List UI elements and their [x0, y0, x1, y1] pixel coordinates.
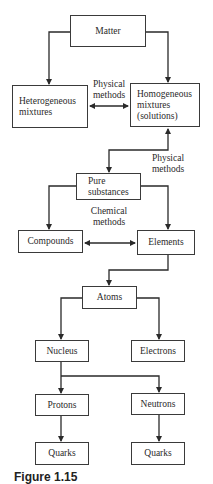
node-protons: Protons [35, 394, 89, 416]
node-atoms-label: Atoms [97, 292, 122, 303]
node-homogeneous-label: Homogeneous mixtures (solutions) [137, 89, 192, 122]
node-electrons-label: Electrons [140, 346, 176, 357]
node-pure-substances: Pure substances [76, 173, 141, 200]
node-neutrons-label: Neutrons [141, 399, 176, 410]
node-matter: Matter [70, 15, 146, 47]
node-elements-label: Elements [148, 237, 183, 248]
node-heterogeneous-mixtures: Heterogeneous mixtures [12, 85, 88, 128]
node-quarks-left: Quarks [35, 442, 89, 465]
node-atoms: Atoms [82, 286, 137, 309]
node-nucleus-label: Nucleus [46, 346, 77, 357]
node-neutrons: Neutrons [131, 393, 185, 415]
node-compounds-label: Compounds [28, 236, 74, 247]
node-elements: Elements [137, 230, 195, 255]
node-matter-label: Matter [95, 26, 120, 37]
node-quarks-right-label: Quarks [144, 448, 171, 459]
node-compounds: Compounds [18, 230, 83, 253]
node-pure-substances-label: Pure substances [88, 176, 129, 198]
figure-caption: Figure 1.15 [14, 470, 77, 484]
edge-label-physical-methods-1: Physical methods [86, 79, 132, 101]
node-heterogeneous-label: Heterogeneous mixtures [19, 96, 76, 118]
edge-label-physical-methods-2: Physical methods [145, 153, 191, 175]
node-quarks-right: Quarks [131, 442, 185, 465]
node-nucleus: Nucleus [35, 340, 89, 362]
node-electrons: Electrons [131, 340, 185, 362]
node-protons-label: Protons [47, 400, 76, 411]
node-quarks-left-label: Quarks [48, 448, 75, 459]
edge-label-chemical-methods: Chemical methods [85, 206, 133, 228]
node-homogeneous-mixtures: Homogeneous mixtures (solutions) [130, 83, 200, 127]
